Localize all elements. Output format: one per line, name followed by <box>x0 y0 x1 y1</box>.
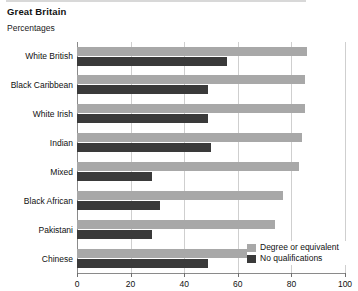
bar-degree <box>77 75 305 84</box>
legend-item: No qualifications <box>247 253 355 263</box>
bar-no-qualifications <box>77 143 211 152</box>
category-label: Pakistani <box>0 225 73 235</box>
bar-degree <box>77 191 283 200</box>
chart-header: Great Britain Percentages <box>7 6 237 34</box>
bar-group <box>77 71 345 100</box>
x-tick-mark <box>345 273 346 277</box>
chart-subtitle: Percentages <box>7 22 237 34</box>
bar-degree <box>77 162 299 171</box>
bar-groups <box>77 42 345 273</box>
legend-item: Degree or equivalent <box>247 242 355 252</box>
x-tick-label: 0 <box>75 279 80 289</box>
gridline <box>345 42 346 273</box>
bar-group <box>77 158 345 187</box>
bar-no-qualifications <box>77 201 160 210</box>
category-label: White Irish <box>0 109 73 119</box>
x-tick-mark <box>77 273 78 277</box>
x-tick-label: 40 <box>179 279 188 289</box>
category-axis-labels: White BritishBlack CaribbeanWhite IrishI… <box>0 42 73 273</box>
bar-degree <box>77 104 305 113</box>
legend-label: No qualifications <box>260 253 322 263</box>
legend-label: Degree or equivalent <box>260 242 339 252</box>
top-divider-rule <box>6 0 306 2</box>
x-tick-label: 100 <box>338 279 352 289</box>
plot-area <box>77 42 345 273</box>
legend-swatch-degree <box>247 244 256 252</box>
bar-no-qualifications <box>77 259 208 268</box>
x-tick-mark <box>238 273 239 277</box>
bar-group <box>77 129 345 158</box>
x-axis-ticks: 020406080100 <box>77 273 345 291</box>
category-label: Mixed <box>0 167 73 177</box>
bar-no-qualifications <box>77 85 208 94</box>
x-tick-mark <box>291 273 292 277</box>
x-tick-label: 20 <box>126 279 135 289</box>
category-label: Black African <box>0 196 73 206</box>
bar-group <box>77 42 345 71</box>
x-tick-label: 80 <box>287 279 296 289</box>
bar-no-qualifications <box>77 172 152 181</box>
bar-degree <box>77 220 275 229</box>
bar-no-qualifications <box>77 57 227 66</box>
chart-title: Great Britain <box>7 6 237 18</box>
bar-group <box>77 215 345 244</box>
legend-swatch-noqual <box>247 255 256 263</box>
bar-no-qualifications <box>77 230 152 239</box>
bar-group <box>77 186 345 215</box>
category-label: White British <box>0 51 73 61</box>
bar-degree <box>77 133 302 142</box>
x-tick-mark <box>131 273 132 277</box>
x-tick-mark <box>184 273 185 277</box>
category-label: Black Caribbean <box>0 80 73 90</box>
x-tick-label: 60 <box>233 279 242 289</box>
category-label: Indian <box>0 138 73 148</box>
bar-no-qualifications <box>77 114 208 123</box>
bar-degree <box>77 249 257 258</box>
bar-group <box>77 100 345 129</box>
chart-container: Great Britain Percentages White BritishB… <box>0 0 358 291</box>
category-label: Chinese <box>0 254 73 264</box>
chart-legend: Degree or equivalentNo qualifications <box>247 241 355 265</box>
bar-degree <box>77 47 307 56</box>
